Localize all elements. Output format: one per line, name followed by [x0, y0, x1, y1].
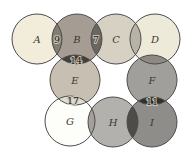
circle-B-label: B [72, 34, 80, 45]
diagram-canvas: ABCDEFGHI97141711 [0, 0, 188, 154]
overlap-F-I-value: 11 [146, 96, 158, 107]
circle-E-label: E [70, 75, 79, 86]
circle-G-label: G [66, 116, 74, 127]
circle-D-label: D [150, 34, 159, 45]
overlap-B-E-value: 14 [70, 55, 82, 66]
overlap-E-G-value: 17 [67, 95, 79, 106]
overlapping-circles-figure: ABCDEFGHI97141711 [0, 0, 188, 154]
circle-C-label: C [112, 34, 120, 45]
circle-H-label: H [108, 117, 118, 128]
overlap-B-C-value: 7 [93, 34, 99, 45]
circle-A-label: A [32, 34, 40, 45]
overlap-A-B-value: 9 [54, 34, 60, 45]
circle-F-label: F [148, 75, 157, 86]
